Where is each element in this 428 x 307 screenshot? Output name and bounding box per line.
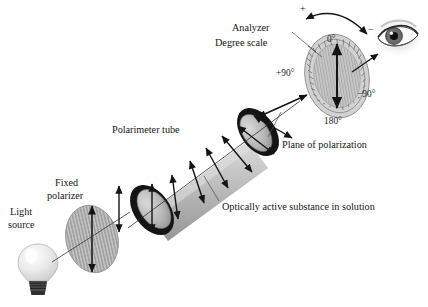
fixed-polarizer-label-line1: Fixed — [55, 177, 78, 188]
dial-label-zero: 0° — [327, 34, 336, 44]
optically-active-label: Optically active substance in solution — [222, 201, 375, 212]
figure-background — [0, 0, 428, 307]
analyzer-label: Analyzer — [232, 22, 270, 33]
dial-label-one-eighty: 180° — [324, 116, 342, 126]
polarimeter-tube-label: Polarimeter tube — [112, 124, 180, 135]
light-source-label-line1: Light — [10, 206, 32, 217]
polarimeter-figure: Light source Fixed polarizer — [0, 0, 428, 307]
light-source-label-line2: source — [8, 219, 35, 230]
degree-scale-label: Degree scale — [215, 37, 268, 48]
plane-of-polarization-label: Plane of polarization — [282, 139, 367, 150]
observer-eye — [371, 16, 425, 58]
dial-label-plus-ninety: +90° — [276, 68, 295, 78]
plus-sign-label: + — [300, 3, 306, 14]
bulb-screw-base — [29, 281, 47, 295]
fixed-polarizer-label-line2: polarizer — [47, 190, 84, 201]
dial-label-minus-ninety: −90° — [357, 89, 376, 99]
